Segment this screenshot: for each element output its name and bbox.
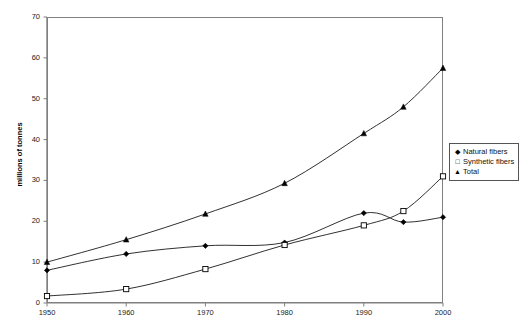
series-total [44, 65, 446, 264]
data-point-diamond [124, 251, 129, 256]
data-point-diamond [401, 220, 406, 225]
data-point-triangle [282, 180, 288, 185]
legend-marker-icon: □ [453, 157, 462, 167]
data-point-square [401, 208, 406, 213]
legend-label: Synthetic fibers [462, 157, 514, 167]
legend-item: □Synthetic fibers [453, 157, 514, 167]
data-point-triangle [440, 65, 446, 70]
series-line [47, 176, 443, 296]
data-point-square [203, 266, 208, 271]
data-point-diamond [203, 243, 208, 248]
data-point-square [361, 223, 366, 228]
legend-item: ▲Total [453, 167, 514, 177]
legend-marker-icon: ▲ [453, 167, 462, 177]
legend-item: ◆Natural fibers [453, 147, 514, 157]
data-point-triangle [361, 130, 367, 135]
data-point-square [44, 293, 49, 298]
series-line [47, 68, 443, 262]
series-line [47, 212, 443, 270]
data-point-square [124, 287, 129, 292]
series-synthetic-fibers [44, 174, 445, 299]
series-natural-fibers [44, 211, 445, 273]
legend-label: Natural fibers [462, 147, 508, 157]
data-point-diamond [361, 211, 366, 216]
data-point-diamond [44, 268, 49, 273]
legend-label: Total [462, 167, 479, 177]
data-point-square [440, 174, 445, 179]
data-point-square [282, 242, 287, 247]
line-chart: millions of tonnes 010203040506070 19501… [0, 0, 528, 328]
data-point-diamond [440, 215, 445, 220]
legend-marker-icon: ◆ [453, 147, 462, 157]
chart-legend: ◆Natural fibers□Synthetic fibers▲Total [449, 143, 519, 181]
